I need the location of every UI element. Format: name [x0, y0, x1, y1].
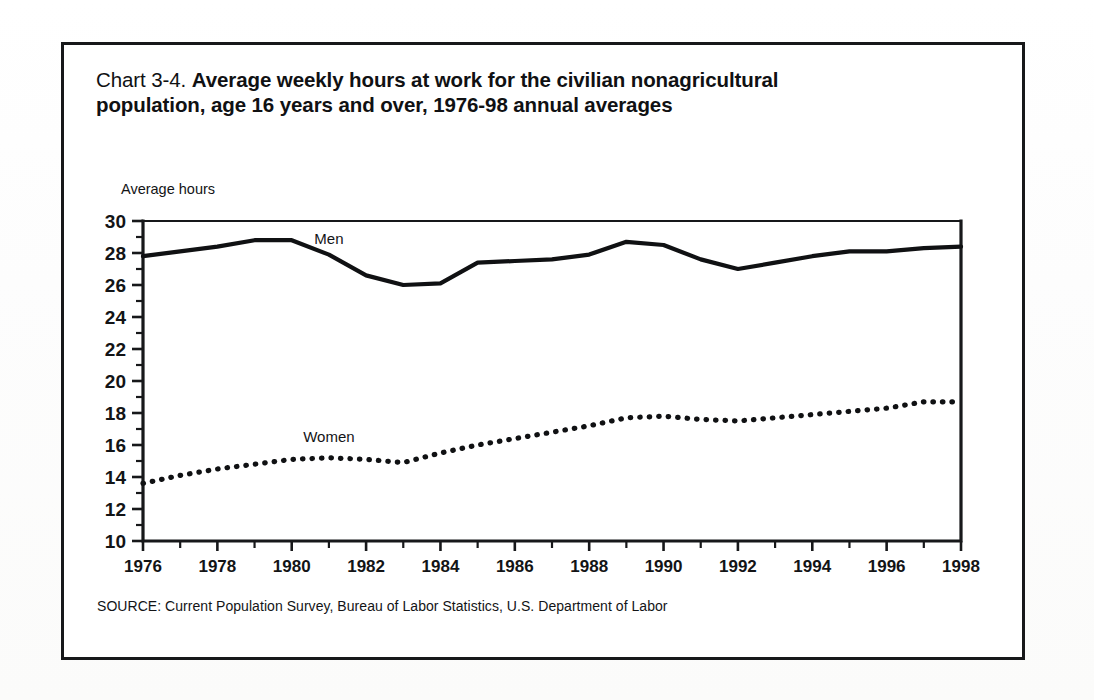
series-label-men: Men — [314, 230, 343, 247]
y-tick-label: 22 — [105, 339, 126, 360]
y-tick-label: 10 — [105, 531, 126, 552]
x-tick-label: 1984 — [422, 557, 460, 576]
series-line-men — [143, 240, 961, 285]
figure-frame: Chart 3-4. Average weekly hours at work … — [61, 42, 1025, 660]
y-tick-label: 18 — [105, 403, 126, 424]
y-tick-label: 24 — [105, 307, 127, 328]
x-tick-label: 1978 — [198, 557, 236, 576]
axis-lines — [143, 221, 961, 541]
x-tick-label: 1996 — [868, 557, 906, 576]
x-tick-label: 1998 — [942, 557, 980, 576]
y-tick-label: 12 — [105, 499, 126, 520]
page-canvas: Chart 3-4. Average weekly hours at work … — [0, 0, 1094, 700]
series-label-women: Women — [303, 428, 354, 445]
x-tick-label: 1986 — [496, 557, 534, 576]
x-tick-label: 1976 — [124, 557, 162, 576]
x-tick-label: 1992 — [719, 557, 757, 576]
x-tick-label: 1994 — [793, 557, 831, 576]
x-tick-label: 1988 — [570, 557, 608, 576]
source-note: SOURCE: Current Population Survey, Burea… — [97, 598, 668, 614]
x-tick-label: 1982 — [347, 557, 385, 576]
y-tick-label: 28 — [105, 243, 126, 264]
x-tick-label: 1990 — [645, 557, 683, 576]
y-tick-label: 16 — [105, 435, 126, 456]
plot-area: 1012141618202224262830197619781980198219… — [64, 45, 1028, 663]
series-line-women — [143, 402, 961, 484]
y-tick-label: 30 — [105, 211, 126, 232]
y-tick-label: 14 — [105, 467, 127, 488]
y-tick-label: 20 — [105, 371, 126, 392]
y-tick-label: 26 — [105, 275, 126, 296]
x-tick-label: 1980 — [273, 557, 311, 576]
line-chart-svg: 1012141618202224262830197619781980198219… — [64, 45, 1028, 663]
